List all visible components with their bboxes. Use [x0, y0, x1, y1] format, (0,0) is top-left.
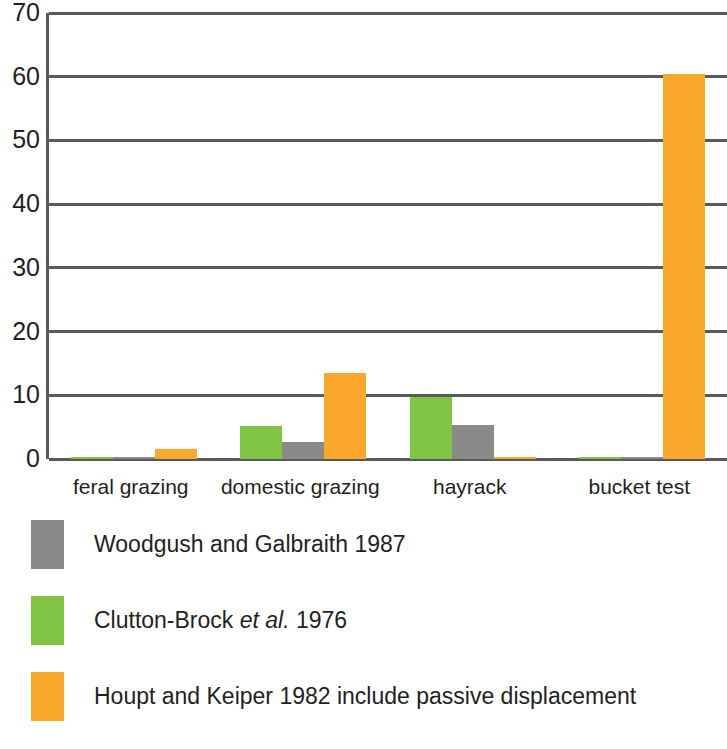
bar — [452, 425, 494, 459]
legend-swatch-gray — [31, 520, 64, 569]
bar — [663, 74, 705, 459]
y-tick-label: 0 — [4, 446, 40, 471]
bar — [494, 457, 536, 459]
x-tick-label: bucket test — [555, 474, 725, 500]
legend-item-label: Clutton-Brock et al. 1976 — [94, 605, 347, 635]
y-tick-label: 30 — [4, 255, 40, 280]
bars-layer — [49, 13, 727, 459]
y-tick-label: 50 — [4, 127, 40, 152]
y-tick-label: 20 — [4, 319, 40, 344]
bar — [155, 449, 197, 459]
x-tick-label: feral grazing — [46, 474, 216, 500]
legend-item-label: Woodgush and Galbraith 1987 — [94, 529, 406, 559]
legend-swatch-orange — [31, 672, 64, 721]
bar — [113, 457, 155, 459]
legend-item-label: Houpt and Keiper 1982 include passive di… — [94, 681, 636, 711]
x-tick-label: domestic grazing — [216, 474, 386, 500]
bar — [282, 442, 324, 459]
bar — [240, 426, 282, 459]
y-axis: 706050403020100 — [0, 0, 40, 470]
bar — [71, 457, 113, 459]
bar-chart: 706050403020100 feral grazingdomestic gr… — [0, 0, 724, 510]
legend-label-italic: et al. — [240, 607, 290, 633]
y-tick-label: 70 — [4, 0, 40, 25]
y-tick-label: 60 — [4, 64, 40, 89]
legend-label-text: Clutton-Brock — [94, 607, 240, 633]
bar — [410, 397, 452, 459]
bar — [621, 457, 663, 459]
y-tick-label: 40 — [4, 191, 40, 216]
x-tick-label: hayrack — [385, 474, 555, 500]
legend-label-text-post: 1976 — [290, 607, 348, 633]
chart-legend: Woodgush and Galbraith 1987Clutton-Brock… — [0, 520, 724, 749]
plot-area — [46, 13, 724, 459]
bar — [579, 457, 621, 459]
bar — [324, 373, 366, 459]
x-axis: feral grazingdomestic grazinghayrackbuck… — [46, 474, 724, 510]
legend-swatch-green — [31, 596, 64, 645]
y-tick-label: 10 — [4, 382, 40, 407]
